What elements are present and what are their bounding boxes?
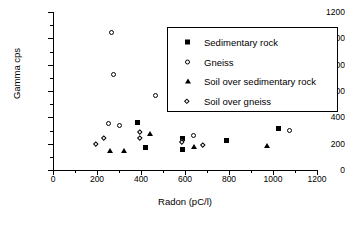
data-point <box>180 147 185 152</box>
x-tick-minor-300 <box>119 170 120 173</box>
data-point <box>147 131 153 136</box>
x-tick-label-1200: 1200 <box>297 175 337 184</box>
data-point <box>224 138 229 143</box>
legend-item-1: Gneiss <box>168 52 339 72</box>
data-point <box>135 120 140 125</box>
data-point <box>276 126 281 131</box>
data-point <box>121 148 127 153</box>
x-tick-minor-700 <box>207 170 208 173</box>
scatter-chart: Gamma cps Radon (pC/l) 02004006008001000… <box>0 0 345 229</box>
legend-label: Soil over gneiss <box>204 95 271 106</box>
data-point <box>143 145 148 150</box>
data-point <box>191 144 197 149</box>
legend: Sedimentary rockGneissSoil over sediment… <box>167 27 338 112</box>
open-circle-icon <box>185 59 190 64</box>
legend-label: Gneiss <box>204 56 234 67</box>
data-point <box>117 123 122 128</box>
x-tick-minor-100 <box>75 170 76 173</box>
filled-triangle-icon <box>185 79 191 84</box>
open-diamond-icon <box>184 98 189 103</box>
x-tick-label-200: 200 <box>77 175 117 184</box>
legend-item-0: Sedimentary rock <box>168 32 339 52</box>
x-tick-label-400: 400 <box>121 175 161 184</box>
x-axis-title: Radon (pC/l) <box>53 196 317 207</box>
x-tick-label-1000: 1000 <box>253 175 293 184</box>
legend-label: Sedimentary rock <box>204 37 278 48</box>
data-point <box>106 121 111 126</box>
x-tick-label-0: 0 <box>33 175 73 184</box>
filled-square-icon <box>185 40 190 45</box>
data-point <box>153 93 158 98</box>
x-tick-label-800: 800 <box>209 175 249 184</box>
x-tick-minor-500 <box>163 170 164 173</box>
data-point <box>111 72 116 77</box>
x-tick-label-600: 600 <box>165 175 205 184</box>
legend-label: Soil over sedimentary rock <box>204 76 316 87</box>
data-point <box>264 143 270 148</box>
legend-item-2: Soil over sedimentary rock <box>168 71 339 91</box>
legend-item-3: Soil over gneiss <box>168 91 339 111</box>
x-tick-minor-1100 <box>295 170 296 173</box>
y-axis-title: Gamma cps <box>11 34 22 114</box>
data-point <box>107 148 113 153</box>
x-tick-minor-900 <box>251 170 252 173</box>
